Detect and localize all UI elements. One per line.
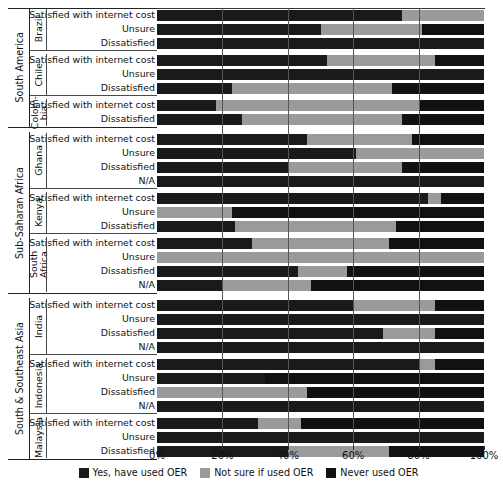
country-group: South Africa [30, 238, 47, 291]
legend-item[interactable]: Yes, have used OER [79, 467, 188, 478]
bar-row [157, 300, 484, 311]
region-group: South & Southeast Asia [8, 300, 30, 457]
bar-row [157, 328, 484, 339]
bar-row [157, 83, 484, 94]
region-separator [8, 293, 157, 294]
row-label: Dissatisfied [101, 386, 155, 397]
bar-segment-notsure [383, 328, 435, 339]
bar-segment-yes [157, 100, 216, 111]
country-rule [46, 99, 47, 126]
row-label: Dissatisfied [101, 265, 155, 276]
bar-segment-notsure [402, 10, 484, 21]
country-rule [46, 299, 47, 354]
bar-segment-yes [157, 38, 484, 49]
country-rule [46, 358, 47, 413]
bar-row [157, 401, 484, 412]
legend-label: Not sure if used OER [214, 467, 313, 478]
bar-segment-never [265, 373, 484, 384]
row-label: Satisfied with internet cost [29, 299, 155, 310]
bar-segment-yes [157, 55, 327, 66]
bar-segment-notsure [419, 359, 435, 370]
bar-segment-yes [157, 238, 252, 249]
bar-row [157, 238, 484, 249]
country-rule [46, 9, 47, 50]
country-label: Brazil [34, 16, 44, 42]
region-group: South America [8, 10, 30, 125]
x-tick-label: 60% [333, 450, 373, 461]
bar-segment-never [232, 207, 484, 218]
country-label: Chile [34, 63, 44, 86]
bar-segment-never [402, 162, 484, 173]
country-label: Colom-bia [30, 96, 48, 129]
row-label: Dissatisfied [101, 220, 155, 231]
bar-segment-yes [157, 266, 298, 277]
bar-row [157, 162, 484, 173]
region-rule [29, 298, 30, 459]
legend-item[interactable]: Never used OER [326, 467, 418, 478]
bar-segment-yes [157, 83, 232, 94]
bar-segment-notsure [157, 387, 307, 398]
bar-segment-yes [157, 148, 356, 159]
bar-row [157, 148, 484, 159]
bar-row [157, 252, 484, 263]
region-separator [8, 127, 157, 128]
legend: Yes, have used OERNot sure if used OERNe… [0, 467, 497, 478]
bar-segment-never [441, 193, 484, 204]
legend-item[interactable]: Not sure if used OER [200, 467, 313, 478]
bar-row [157, 176, 484, 187]
country-group: Malaysia [30, 418, 47, 457]
bar-row [157, 387, 484, 398]
region-label: South America [14, 32, 25, 103]
bar-segment-notsure [307, 134, 412, 145]
country-label: Kenya [34, 198, 44, 227]
bar-segment-never [389, 238, 484, 249]
bar-segment-yes [157, 193, 428, 204]
bar-segment-yes [157, 401, 484, 412]
bar-segment-yes [157, 134, 307, 145]
row-label: Unsure [122, 206, 155, 217]
legend-swatch [200, 468, 210, 478]
bar-segment-never [419, 100, 484, 111]
country-group: Chile [30, 55, 47, 94]
country-label: Indonesia [34, 363, 44, 408]
bar-segment-notsure [356, 148, 484, 159]
x-tick-label: 40% [268, 450, 308, 461]
region-rule [29, 8, 30, 127]
bar-segment-notsure [222, 280, 310, 291]
country-rule [46, 417, 47, 458]
country-separator [30, 50, 157, 51]
bar-segment-yes [157, 221, 235, 232]
bar-row [157, 207, 484, 218]
country-group: Ghana [30, 134, 47, 187]
label-block-cap [8, 459, 157, 460]
bar-row [157, 193, 484, 204]
row-label: Dissatisfied [101, 113, 155, 124]
bar-segment-yes [157, 114, 242, 125]
legend-swatch [79, 468, 89, 478]
row-label: N/A [138, 175, 155, 186]
legend-swatch [326, 468, 336, 478]
row-label: Satisfied with internet cost [29, 358, 155, 369]
bar-row [157, 432, 484, 443]
region-rule [29, 132, 30, 293]
bar-segment-yes [157, 373, 265, 384]
bar-segment-never [396, 221, 484, 232]
row-label-column: Satisfied with internet costUnsureDissat… [47, 8, 155, 446]
country-separator [30, 413, 157, 414]
row-label: N/A [138, 279, 155, 290]
country-separator [30, 233, 157, 234]
x-tick-label: 100% [464, 450, 503, 461]
bar-row [157, 314, 484, 325]
region-group: Sub-Saharan Africa [8, 134, 30, 291]
bar-segment-yes [157, 10, 402, 21]
bar-segment-notsure [252, 238, 389, 249]
gridline [222, 8, 223, 446]
bar-row [157, 134, 484, 145]
country-group: India [30, 300, 47, 353]
gridline [288, 8, 289, 446]
bar-segment-yes [157, 69, 484, 80]
country-label: Ghana [34, 145, 44, 176]
row-label: Dissatisfied [101, 37, 155, 48]
bar-row [157, 55, 484, 66]
